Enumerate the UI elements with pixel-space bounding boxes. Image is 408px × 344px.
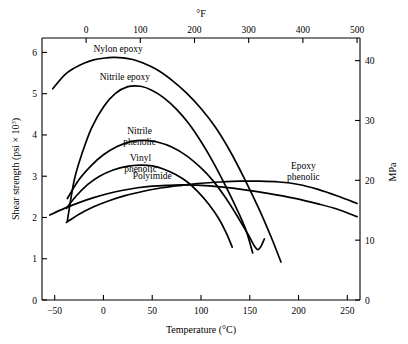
- chart-figure: −50050100150200250 0100200300400500 0123…: [0, 0, 408, 344]
- shear-strength-vs-temperature-chart: −50050100150200250 0100200300400500 0123…: [0, 0, 408, 344]
- top-tick-label: 400: [296, 25, 311, 35]
- right-tick-label: 30: [365, 116, 375, 126]
- bottom-axis-ticks: −50050100150200250: [47, 295, 354, 316]
- top-tick-label: 300: [242, 25, 257, 35]
- bottom-tick-label: 100: [194, 306, 209, 316]
- top-tick-label: 500: [350, 25, 365, 35]
- top-tick-label: 0: [84, 25, 89, 35]
- curve-label-nitrile-phenolic-line1: Nitrile: [127, 126, 152, 136]
- top-tick-label: 200: [187, 25, 202, 35]
- bottom-tick-label: 250: [340, 306, 355, 316]
- curve-polyimide: [50, 185, 357, 217]
- top-axis-title: °F: [196, 8, 206, 19]
- bottom-tick-label: −50: [47, 306, 62, 316]
- bottom-tick-label: 150: [243, 306, 258, 316]
- top-axis-ticks: 0100200300400500: [84, 25, 365, 43]
- y-axis-title-close-paren: ): [10, 118, 22, 121]
- right-axis-title: MPa: [387, 162, 398, 181]
- left-axis-ticks: 0123456: [32, 48, 47, 306]
- bottom-tick-label: 200: [291, 306, 306, 316]
- right-tick-label: 10: [365, 236, 375, 246]
- top-tick-label: 100: [133, 25, 148, 35]
- curve-epoxy-phenolic: [66, 181, 357, 222]
- curve-label-nitrile-epoxy: Nitrile epoxy: [100, 72, 151, 82]
- curve-label-vinyl-phenolic-line1: Vinyl: [130, 153, 151, 163]
- left-tick-label: 3: [32, 172, 37, 182]
- curve-nitrile-phenolic: [67, 140, 264, 249]
- data-curves: [50, 57, 357, 262]
- left-tick-label: 4: [32, 130, 37, 140]
- bottom-tick-label: 0: [101, 306, 106, 316]
- y-axis-title-main: Shear strength (psi × 10: [10, 124, 22, 220]
- curve-label-epoxy-phenolic-line1: Epoxy: [291, 161, 316, 171]
- left-tick-label: 1: [32, 254, 37, 264]
- x-axis-title: Temperature (°C): [166, 324, 236, 336]
- right-tick-label: 0: [365, 296, 370, 306]
- right-axis-ticks: 010203040: [355, 56, 375, 305]
- right-tick-label: 40: [365, 56, 375, 66]
- curve-label-nitrile-phenolic-line2: phenolic: [123, 137, 156, 147]
- curve-label-polyimide: Polyimide: [133, 171, 172, 181]
- curve-label-nylon-epoxy: Nylon epoxy: [93, 44, 143, 54]
- y-axis-title: Shear strength (psi × 103): [10, 118, 22, 220]
- left-tick-label: 6: [32, 48, 37, 58]
- left-tick-label: 0: [32, 296, 37, 306]
- left-tick-label: 2: [32, 213, 37, 223]
- curve-annotation-labels: Nylon epoxyNitrile epoxyNitrilephenolicV…: [93, 44, 319, 182]
- right-tick-label: 20: [365, 176, 375, 186]
- curve-label-epoxy-phenolic-line2: phenolic: [287, 172, 320, 182]
- curve-nitrile-epoxy: [67, 86, 252, 253]
- bottom-tick-label: 50: [147, 306, 157, 316]
- left-tick-label: 5: [32, 89, 37, 99]
